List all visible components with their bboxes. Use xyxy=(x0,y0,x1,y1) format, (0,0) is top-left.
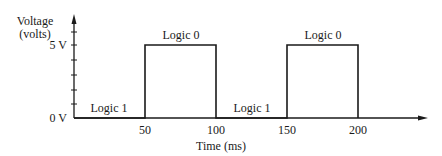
segment-label-1: Logic 1 xyxy=(91,101,128,115)
y-tick-label-5v: 5 V xyxy=(50,38,68,52)
y-axis-arrow-icon xyxy=(72,14,77,24)
x-tick-label-200: 200 xyxy=(349,123,367,137)
segment-label-4: Logic 0 xyxy=(305,28,342,42)
y-tick-label-0v: 0 V xyxy=(50,111,68,125)
x-tick-label-50: 50 xyxy=(139,123,151,137)
y-axis-label-line1: Voltage xyxy=(17,14,53,28)
segment-label-2: Logic 0 xyxy=(163,28,200,42)
x-tick-label-150: 150 xyxy=(278,123,296,137)
x-tick-label-100: 100 xyxy=(207,123,225,137)
x-axis-label: Time (ms) xyxy=(196,139,246,153)
x-axis-arrow-icon xyxy=(418,116,428,121)
signal-diagram: Voltage (volts) 5 V 0 V Logic 1 Logic 0 … xyxy=(0,0,442,156)
segment-label-3: Logic 1 xyxy=(234,101,271,115)
y-axis-label-line2: (volts) xyxy=(19,27,50,41)
